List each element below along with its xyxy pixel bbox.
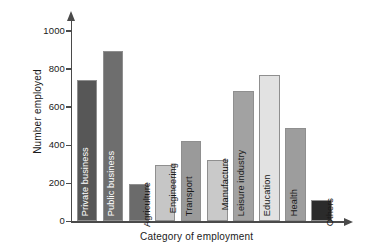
y-axis-tick [66, 221, 72, 222]
bar-label: Education [264, 175, 273, 217]
bar-label: Engineering [169, 163, 178, 213]
y-axis-tick-label: 0 [60, 216, 65, 226]
y-axis-tick-label: 400 [49, 140, 65, 150]
bar: Others [311, 200, 332, 221]
bar-label: Health [290, 189, 299, 216]
bar: Transport [181, 141, 202, 221]
x-axis-arrow-icon [344, 218, 353, 226]
bar: Public business [103, 51, 124, 221]
y-axis-title: Number employed [32, 42, 43, 182]
bar: Health [285, 128, 306, 221]
y-axis-tick-label: 600 [49, 102, 65, 112]
y-axis-tick [66, 30, 72, 31]
bar: Engineering [155, 165, 176, 221]
bar: Agriculture [129, 184, 150, 221]
y-axis-tick-label: 800 [49, 64, 65, 74]
bar-label: Transport [186, 176, 195, 216]
bar: Manufacture [207, 160, 228, 221]
y-axis-tick [66, 145, 72, 146]
bar-label: Public business [107, 151, 116, 216]
y-axis-tick-label: 1000 [43, 26, 65, 36]
y-axis-tick [66, 106, 72, 107]
bar-label: Manufacture [221, 158, 230, 210]
y-axis-tick [66, 183, 72, 184]
bar-label: Leisure industry [238, 150, 247, 216]
bar: Private business [77, 80, 98, 222]
bar: Leisure industry [233, 91, 254, 221]
bar: Education [259, 75, 280, 222]
bar-label: Private business [81, 147, 90, 216]
y-axis-arrow-icon [67, 11, 75, 21]
y-axis-tick-label: 200 [49, 178, 65, 188]
bar-chart: 02004006008001000 Private businessPublic… [0, 0, 381, 252]
x-axis-line [71, 221, 345, 222]
y-axis-line [71, 20, 72, 222]
x-axis-title: Category of employment [140, 231, 253, 242]
y-axis-tick [66, 68, 72, 69]
